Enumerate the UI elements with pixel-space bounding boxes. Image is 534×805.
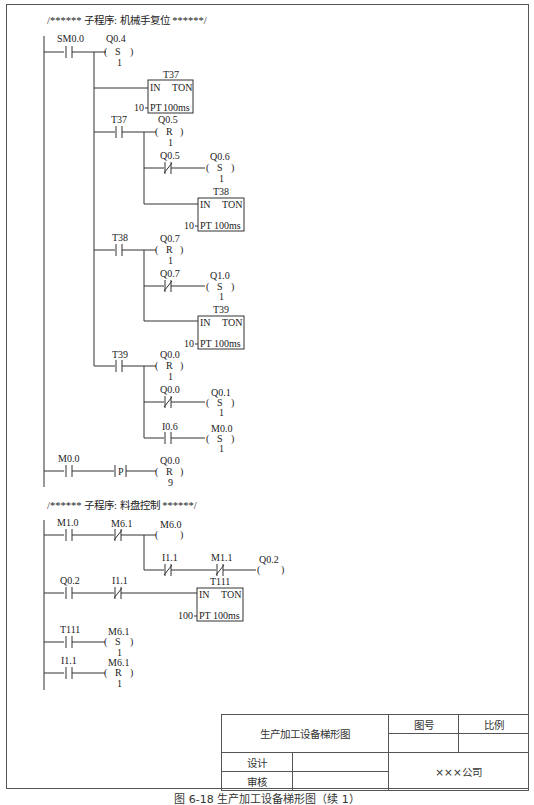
company-name: ×××公司: [389, 753, 529, 791]
svg-text:Q0.0: Q0.0: [160, 349, 180, 360]
svg-text:Q0.2: Q0.2: [259, 554, 279, 565]
contact-nc-m61: [114, 529, 122, 541]
review-value: [293, 772, 389, 791]
svg-text:Q0.7: Q0.7: [160, 268, 180, 279]
drawing-no-value: [389, 734, 459, 753]
contact-no-t37: [116, 126, 122, 138]
svg-text:M6.1: M6.1: [111, 518, 132, 529]
svg-text:(: (: [155, 466, 159, 478]
svg-text:10: 10: [184, 338, 194, 349]
coil-q04-set: Q0.4 ( S ) 1: [104, 33, 133, 68]
timer-t39: T39 IN TON PT 100ms 10: [184, 304, 244, 349]
svg-text:10: 10: [184, 220, 194, 231]
svg-text:100ms: 100ms: [163, 102, 190, 113]
svg-text:1: 1: [117, 57, 122, 68]
svg-text:Q0.0: Q0.0: [160, 455, 180, 466]
svg-text:S: S: [217, 162, 223, 173]
svg-text:1: 1: [219, 443, 224, 454]
positive-edge-p: P: [115, 465, 126, 477]
svg-text:P: P: [118, 466, 124, 477]
svg-text:1: 1: [219, 173, 224, 184]
svg-text:IN: IN: [200, 317, 211, 328]
svg-text:TON: TON: [222, 199, 242, 210]
svg-text:T37: T37: [163, 69, 179, 80]
svg-text:(: (: [206, 397, 210, 409]
scale-label: 比例: [459, 715, 529, 734]
timer-t38: T38 IN TON PT 100ms 10: [184, 186, 244, 231]
contact-no-t111: [66, 636, 72, 648]
svg-text:IN: IN: [150, 82, 161, 93]
svg-text:I1.1: I1.1: [61, 655, 77, 666]
svg-text:PT: PT: [150, 102, 162, 113]
drawing-no-label: 图号: [389, 715, 459, 734]
svg-text:(: (: [206, 162, 210, 174]
svg-text:IN: IN: [199, 589, 210, 600]
svg-text:T38: T38: [213, 186, 229, 197]
svg-text:1: 1: [219, 407, 224, 418]
contact-nc-q00: [164, 396, 172, 408]
svg-text:R: R: [166, 360, 173, 371]
svg-text:PT: PT: [200, 220, 212, 231]
svg-text:): ): [231, 397, 234, 409]
svg-text:): ): [130, 667, 133, 679]
timer-t111: T111 IN TON PT 100ms 100: [178, 576, 243, 621]
svg-text:R: R: [166, 126, 173, 137]
svg-text:S: S: [115, 636, 121, 647]
svg-text:10: 10: [134, 102, 144, 113]
svg-text:I1.1: I1.1: [112, 575, 128, 586]
svg-text:): ): [130, 46, 133, 58]
svg-text:): ): [231, 162, 234, 174]
svg-text:M1.1: M1.1: [211, 552, 232, 563]
svg-text:T111: T111: [210, 576, 230, 587]
svg-text:): ): [231, 433, 234, 445]
svg-text:(: (: [104, 667, 108, 679]
svg-text:(: (: [257, 564, 261, 576]
contact-no-i11: [66, 667, 72, 679]
coil-q00-reset-9: Q0.0 ( R ) 9: [155, 455, 183, 488]
svg-text:T111: T111: [60, 624, 80, 635]
design-value: [293, 753, 389, 772]
svg-text:TON: TON: [172, 82, 192, 93]
coil-q07-reset: Q0.7 ( R ) 1: [155, 233, 183, 266]
svg-text:): ): [180, 244, 183, 256]
contact-no-t38: [116, 244, 122, 256]
coil-q00-reset: Q0.0 ( R ) 1: [155, 349, 183, 382]
svg-text:1: 1: [168, 137, 173, 148]
svg-text:Q0.5: Q0.5: [160, 150, 180, 161]
svg-text:S: S: [115, 46, 121, 57]
svg-text:M6.0: M6.0: [160, 519, 181, 530]
svg-text:): ): [281, 564, 284, 576]
svg-text:Q0.5: Q0.5: [158, 114, 178, 125]
svg-text:R: R: [166, 466, 173, 477]
svg-text:T37: T37: [111, 114, 127, 125]
svg-text:): ): [231, 281, 234, 293]
contact-nc-m11: [216, 564, 224, 576]
svg-text:(: (: [155, 360, 159, 372]
coil-q01-set: Q0.1 ( S ) 1: [206, 387, 234, 418]
svg-text:R: R: [166, 244, 173, 255]
coil-m61-set: M6.1 ( S ) 1: [104, 626, 133, 658]
ladder-diagram: /****** 子程序: 机械手复位 ******/ SM0.0 Q0.4 ( …: [0, 0, 534, 720]
svg-text:(: (: [206, 433, 210, 445]
svg-text:(: (: [155, 244, 159, 256]
timer-t37: T37 IN TON PT 100ms 10: [134, 69, 193, 113]
svg-text:PT: PT: [200, 338, 212, 349]
svg-text:1: 1: [168, 371, 173, 382]
coil-m60: M6.0 ( ): [155, 519, 183, 541]
svg-text:Q1.0: Q1.0: [210, 270, 230, 281]
svg-text:Q0.4: Q0.4: [106, 33, 126, 44]
svg-text:1: 1: [117, 678, 122, 689]
coil-q10-set: Q1.0 ( S ) 1: [206, 270, 234, 302]
svg-text:100: 100: [178, 610, 193, 621]
coil-m00-set: M0.0 ( S ) 1: [206, 423, 234, 454]
svg-text:9: 9: [168, 477, 173, 488]
svg-text:I1.1: I1.1: [162, 552, 178, 563]
svg-text:T39: T39: [213, 304, 229, 315]
svg-text:): ): [180, 126, 183, 138]
svg-text:(: (: [155, 126, 159, 138]
svg-text:IN: IN: [200, 199, 211, 210]
contact-no-m00: [66, 465, 72, 477]
svg-text:(: (: [206, 281, 210, 293]
comment-section1: /****** 子程序: 机械手复位 ******/: [47, 14, 207, 26]
contact-no-i06: [165, 432, 171, 444]
